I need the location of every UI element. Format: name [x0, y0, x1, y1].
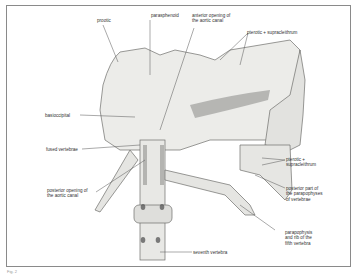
- label-prootic: prootic: [97, 18, 111, 23]
- figure-caption: Fig. 2: [7, 269, 17, 274]
- label-basioccipital: basioccipital: [45, 113, 70, 118]
- label-fused-vertebrae: fused vertebrae: [46, 147, 78, 152]
- label-posterior-part: posterior part of the parapophyses of ve…: [286, 186, 323, 202]
- label-posterior-opening: posterior opening of the aortic canal: [47, 188, 88, 199]
- label-anterior-opening: anterior opening of the aortic canal: [192, 13, 230, 24]
- label-parasphenoid: parasphenoid: [151, 13, 179, 18]
- label-seventh-vertebra: seventh vertebra: [193, 250, 227, 255]
- label-pterotic-right: pterotic + supracleithrum: [286, 157, 316, 168]
- label-parapophysis: parapophysis and rib of the fifth verteb…: [285, 230, 312, 246]
- label-pterotic-top: pterotic + supracleithrum: [247, 30, 297, 35]
